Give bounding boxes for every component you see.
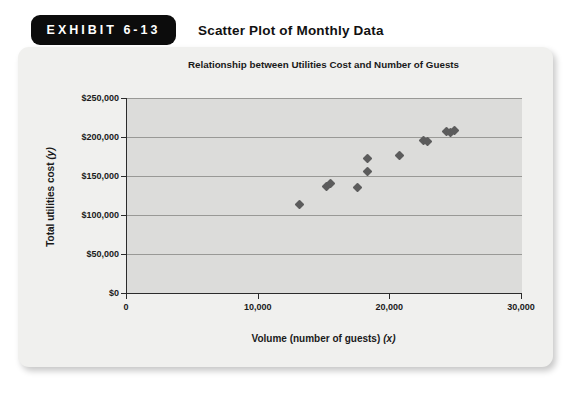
y-axis-variable: (y) [45,147,56,159]
y-tick-label-0: $0 [38,288,119,298]
y-tick-label-100000: $100,000 [38,210,119,220]
data-point-1 [295,200,305,210]
plot-area [126,98,522,294]
y-tick-label-200000: $200,000 [38,132,119,142]
chart-title: Relationship between Utilities Cost and … [126,59,521,70]
x-axis-variable: (x) [383,333,395,344]
x-tick-label-20000: 20,000 [359,302,419,312]
chart-card: Relationship between Utilities Cost and … [18,47,553,367]
data-point-6 [362,153,372,163]
y-tick-150000 [121,176,126,177]
data-point-4 [352,183,362,193]
y-axis-title: Total utilities cost(y) [45,100,59,295]
y-tick-label-250000: $250,000 [38,93,119,103]
exhibit-badge-label: EXHIBIT 6-13 [47,23,161,37]
x-tick-20000 [389,294,390,299]
x-axis-title-text: Volume (number of guests) [252,333,381,344]
gridline-150000 [127,176,522,177]
page: EXHIBIT 6-13 Scatter Plot of Monthly Dat… [0,0,572,398]
x-tick-10000 [258,294,259,299]
y-tick-200000 [121,137,126,138]
x-tick-label-30000: 30,000 [491,302,551,312]
y-tick-100000 [121,215,126,216]
x-tick-label-0: 0 [96,302,156,312]
x-tick-0 [126,294,127,299]
gridline-50000 [127,254,522,255]
data-point-7 [395,151,405,161]
gridline-100000 [127,215,522,216]
y-tick-250000 [121,98,126,99]
y-tick-label-50000: $50,000 [38,249,119,259]
y-tick-label-150000: $150,000 [38,171,119,181]
x-tick-label-10000: 10,000 [228,302,288,312]
gridline-200000 [127,137,522,138]
exhibit-badge: EXHIBIT 6-13 [31,15,176,45]
gridline-250000 [127,98,522,99]
exhibit-title: Scatter Plot of Monthly Data [198,15,384,45]
x-axis-title: Volume (number of guests)(x) [126,333,521,344]
y-tick-50000 [121,254,126,255]
x-tick-30000 [521,294,522,299]
